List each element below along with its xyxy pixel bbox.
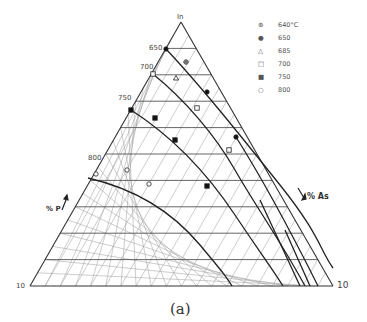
- filled-circle-icon: ●: [258, 34, 272, 42]
- open-triangle-icon: △: [258, 47, 272, 55]
- data-point-open-square: [195, 106, 199, 110]
- apex-label: In: [177, 13, 184, 21]
- data-point-open-square: [227, 148, 231, 152]
- open-circle-icon: ○: [258, 86, 272, 94]
- circle-plus-icon: ⊕: [258, 21, 272, 29]
- isotherm-curves: [88, 49, 333, 286]
- data-point-open-circle: [94, 172, 98, 176]
- isotherm-right-a: [236, 137, 318, 286]
- right-corner-label: 10: [337, 280, 348, 290]
- data-points: [94, 47, 238, 188]
- data-point-filled-square: [129, 108, 133, 112]
- isotherm-label-750: 750: [118, 94, 131, 102]
- left-axis-label: % P: [46, 205, 61, 213]
- legend-item-650: ●650: [258, 34, 290, 42]
- data-point-filled-circle: [234, 135, 238, 139]
- data-point-open-circle: [147, 182, 151, 186]
- legend-item-750: ■750: [258, 73, 290, 81]
- data-point-filled-square: [205, 184, 209, 188]
- data-point-filled-circle: [205, 90, 209, 94]
- data-point-open-circle: [125, 168, 129, 172]
- data-point-filled-square: [173, 138, 177, 142]
- right-axis-label: % As: [307, 192, 329, 201]
- legend-item-685: △685: [258, 47, 290, 55]
- data-point-filled-circle: [164, 47, 168, 51]
- open-square-icon: □: [258, 60, 272, 68]
- legend-item-640: ⊕640°C: [258, 21, 298, 29]
- legend-item-700: □700: [258, 60, 290, 68]
- data-point-filled-square: [153, 116, 157, 120]
- filled-square-icon: ■: [258, 73, 272, 81]
- data-point-open-square: [151, 72, 155, 76]
- ternary-diagram: [0, 0, 367, 322]
- left-corner-label: 10: [16, 282, 25, 290]
- isotherm-label-800: 800: [88, 154, 101, 162]
- isotherm-label-700: 700: [140, 63, 153, 71]
- data-point-open-triangle: [173, 75, 178, 80]
- figure-caption: (a): [170, 300, 191, 318]
- legend-item-800: ○800: [258, 86, 290, 94]
- isotherm-label-650: 650: [149, 44, 162, 52]
